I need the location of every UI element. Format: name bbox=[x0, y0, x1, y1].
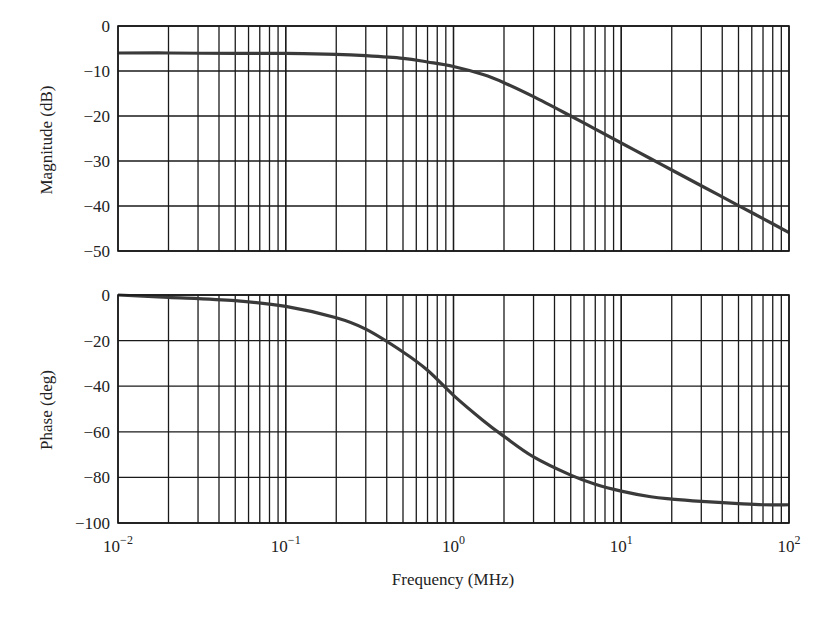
y-tick-label: −20 bbox=[83, 107, 110, 126]
phase-y-tick-labels: 0−20−40−60−80−100 bbox=[75, 286, 110, 533]
magnitude-y-tick-labels: 0−10−20−30−40−50 bbox=[83, 17, 110, 261]
y-tick-label: 0 bbox=[102, 17, 111, 36]
x-tick-label: 101 bbox=[610, 533, 633, 556]
magnitude-panel: 0−10−20−30−40−50 Magnitude (dB) bbox=[37, 17, 789, 261]
x-tick-label: 10−1 bbox=[271, 533, 301, 556]
y-tick-label: −40 bbox=[83, 377, 110, 396]
x-tick-label: 100 bbox=[442, 533, 465, 556]
y-tick-label: −40 bbox=[83, 197, 110, 216]
magnitude-y-axis-label: Magnitude (dB) bbox=[37, 85, 56, 194]
x-tick-label: 10−2 bbox=[103, 533, 133, 556]
phase-panel: 0−20−40−60−80−100 Phase (deg) bbox=[37, 286, 789, 533]
phase-grid bbox=[118, 295, 789, 523]
bode-plot-figure: 0−10−20−30−40−50 Magnitude (dB) 0−20−40−… bbox=[0, 0, 821, 617]
x-axis-tick-labels: 10−210−1100101102 bbox=[103, 533, 800, 556]
y-tick-label: −20 bbox=[83, 332, 110, 351]
y-tick-label: −30 bbox=[83, 152, 110, 171]
y-tick-label: −100 bbox=[75, 514, 110, 533]
x-axis-label: Frequency (MHz) bbox=[392, 570, 514, 589]
y-tick-label: 0 bbox=[102, 286, 111, 305]
x-tick-label: 102 bbox=[778, 533, 801, 556]
y-tick-label: −10 bbox=[83, 62, 110, 81]
bode-plot-svg: 0−10−20−30−40−50 Magnitude (dB) 0−20−40−… bbox=[0, 0, 821, 617]
y-tick-label: −50 bbox=[83, 242, 110, 261]
magnitude-grid bbox=[118, 26, 789, 251]
y-tick-label: −60 bbox=[83, 423, 110, 442]
phase-y-axis-label: Phase (deg) bbox=[37, 370, 56, 450]
y-tick-label: −80 bbox=[83, 468, 110, 487]
